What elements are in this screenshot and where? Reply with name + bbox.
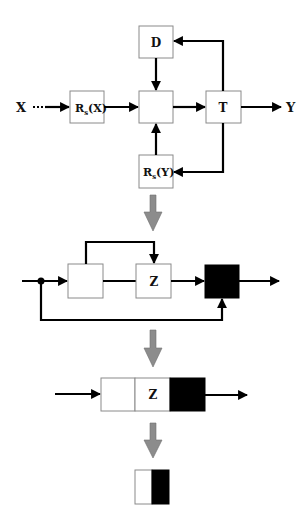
stage-4-compact-block (135, 470, 169, 504)
t-label: T (219, 101, 228, 115)
stage-2-diagram: Z (22, 242, 279, 320)
feedback-t-to-rsy (174, 123, 223, 172)
box-t: T (206, 91, 241, 123)
transition-arrow-3-icon (144, 423, 162, 458)
stage2-black-box (205, 265, 239, 298)
stage3-segment-z: Z (135, 378, 170, 411)
stage2-left-box (68, 264, 103, 298)
diagram-canvas: X Rs(X) D T Y (0, 0, 305, 524)
stage-1-system-diagram: X Rs(X) D T Y (16, 26, 296, 188)
stage4-segment-black (152, 470, 169, 504)
stage-3-diagram: Z (55, 378, 247, 411)
input-label-x: X (16, 100, 27, 115)
stage2-bypass-arrow (86, 242, 154, 264)
feedback-t-to-d (174, 41, 223, 91)
transition-arrow-2-icon (144, 330, 162, 367)
box-rs-y: Rs(Y) (139, 155, 174, 188)
stage3-segment-white (101, 378, 135, 411)
stage3-segment-black (170, 378, 205, 411)
output-label-y: Y (285, 100, 296, 115)
stage2-z-box: Z (136, 264, 171, 298)
svg-text:Rs(Y): Rs(Y) (143, 166, 174, 181)
svg-text:Rs(X): Rs(X) (75, 102, 107, 117)
transition-arrow-1-icon (144, 195, 162, 231)
stage4-segment-white (135, 470, 152, 504)
d-label: D (151, 36, 161, 50)
stage2-z-label: Z (150, 275, 159, 289)
rsx-argument: (X) (88, 102, 107, 115)
stage3-z-label: Z (149, 388, 158, 402)
box-rs-x: Rs(X) (70, 91, 107, 123)
rsy-argument: (Y) (156, 166, 174, 179)
box-center (139, 91, 173, 123)
box-d: D (139, 26, 173, 58)
